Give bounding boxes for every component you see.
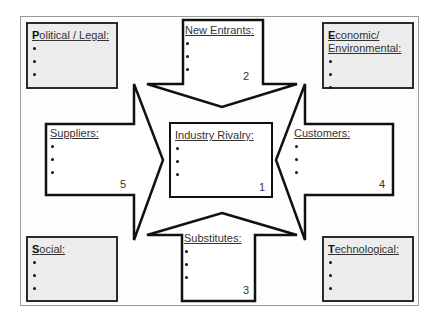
substitutes-bullets [184,245,254,284]
suppliers-content: Suppliers: [50,127,130,179]
new-entrants-content: New Entrants: [185,24,261,76]
new-entrants-number: 2 [243,70,249,82]
customers-number: 4 [379,178,385,190]
suppliers-number: 5 [120,178,126,190]
customers-content: Customers: [294,127,384,179]
suppliers-bullets [50,140,130,179]
technological-bullets [328,256,408,295]
political-legal-box: Political / Legal: [26,22,118,89]
industry-rivalry-bullets [175,142,267,181]
technological-box: Technological: [322,236,414,302]
new-entrants-bullets [185,37,261,76]
suppliers-title: Suppliers: [50,127,130,140]
economic-environmental-title: Economic/ [328,29,408,42]
political-legal-bullets [32,42,112,81]
social-box: Social: [26,236,118,302]
substitutes-title: Substitutes: [184,232,254,245]
economic-environmental-bullets [328,55,408,94]
customers-title: Customers: [294,127,384,140]
social-bullets [32,256,112,295]
new-entrants-title: New Entrants: [185,24,261,37]
economic-environmental-box: Economic/ Environmental: [322,22,414,89]
substitutes-content: Substitutes: [184,232,254,284]
technological-title: Technological: [328,243,408,256]
social-title: Social: [32,243,112,256]
substitutes-number: 3 [243,284,249,296]
political-legal-title: Political / Legal: [32,29,112,42]
economic-environmental-title-line2: Environmental: [328,42,408,55]
industry-rivalry-title: Industry Rivalry: [175,129,267,142]
customers-bullets [294,140,384,179]
industry-rivalry-number: 1 [259,181,265,193]
industry-rivalry-box: Industry Rivalry: 1 [169,122,273,198]
